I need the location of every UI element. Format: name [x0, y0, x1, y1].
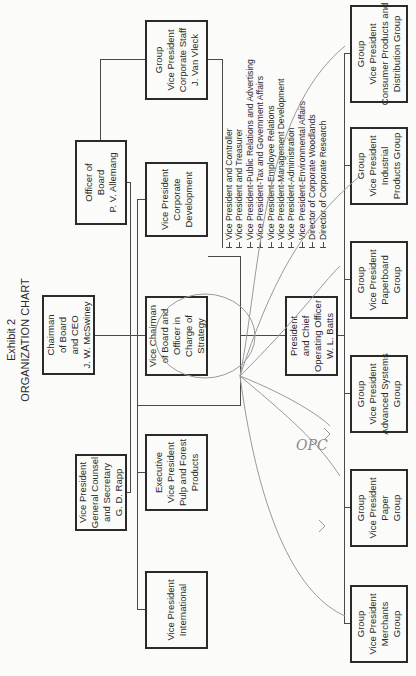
connector [208, 256, 241, 257]
staff-item: Vice President-Administration [286, 0, 296, 248]
arrow-stroke [240, 376, 340, 476]
connector [137, 472, 145, 473]
box-text: Chairman [45, 314, 57, 355]
box-vp-corporate-development: Vice President Corporate Development [145, 162, 208, 237]
box-group-paper: Group Vice President Paper Group [350, 469, 408, 547]
arrow-stroke [240, 376, 345, 616]
box-text: Distribution Group [391, 16, 403, 93]
box-text: and Secretary [101, 463, 113, 522]
staff-item: Vice President and Controller [224, 0, 234, 248]
box-text: Vice President [367, 135, 379, 196]
box-text: W. L. Batts [324, 313, 336, 359]
box-text: Vice President [165, 442, 177, 503]
box-text: Vice President [367, 477, 379, 538]
box-text: Vice President [367, 593, 379, 654]
box-text: of Board and [159, 309, 171, 363]
box-text: P. V. Allemang [107, 152, 119, 212]
box-group-merchants: Group Vice President Merchants Group [350, 585, 408, 663]
box-text: Group [391, 267, 403, 293]
box-officer-of-board: Officer of Board P. V. Allemang [75, 140, 127, 225]
box-text: Vice President [165, 29, 177, 90]
box-text: J. Van Vleck [189, 34, 201, 86]
box-text: Pulp and Forest [177, 439, 189, 506]
staff-item: Director of Corporate Woodlands [307, 0, 317, 248]
connector [137, 199, 145, 200]
corporate-staff-list: Vice President and Controller Vice Presi… [224, 0, 328, 248]
arrowhead [319, 520, 325, 532]
box-text: Products [189, 454, 201, 492]
box-chairman-ceo: Chairman of Board and CEO J. W. McSwiney [42, 295, 95, 375]
box-text: Group [391, 495, 403, 521]
box-text: Industrial [379, 147, 391, 186]
connector [137, 405, 241, 406]
box-text: Executive [153, 452, 165, 493]
box-text: J. W. McSwiney [81, 301, 93, 368]
box-gvp-corporate-staff: Group Vice President Corporate Staff J. … [145, 20, 208, 100]
box-text: Consumer Products and [379, 3, 391, 105]
staff-item: Director of Corporate Research [318, 0, 328, 248]
box-text: Strategy [195, 318, 207, 353]
box-text: Operating Officer [312, 300, 324, 372]
box-text: Corporate Staff [177, 28, 189, 92]
connector [100, 60, 101, 140]
box-vice-chairman: Vice Chairman of Board and Officer in Ch… [145, 296, 208, 376]
connector [240, 335, 285, 336]
connector [95, 335, 131, 336]
box-text: General Counsel [89, 457, 101, 528]
box-text: Merchants [379, 602, 391, 646]
staff-item: Vice President-Tax and Government Affair… [255, 0, 265, 248]
connector [131, 335, 145, 336]
box-text: Group [391, 381, 403, 407]
box-text: Group [355, 267, 367, 293]
box-text: Group [153, 47, 165, 73]
box-text: of Board [57, 317, 69, 353]
connector [127, 492, 131, 493]
box-text: Paperboard [379, 255, 391, 305]
box-text: Charge of [183, 315, 195, 357]
box-text: Group [391, 611, 403, 637]
box-text: Group [355, 153, 367, 179]
arrow-stroke [240, 376, 330, 426]
connector [208, 59, 222, 60]
box-text: Products Group [391, 133, 403, 200]
connector [100, 59, 145, 60]
box-text: Officer in [171, 317, 183, 355]
box-evp-pulp-forest: Executive Vice President Pulp and Forest… [145, 434, 208, 511]
box-group-paperboard: Group Vice President Paperboard Group [350, 241, 408, 319]
handwritten-opc: OPC [296, 437, 328, 453]
box-text: Development [183, 172, 195, 228]
box-text: Group [355, 495, 367, 521]
connector [137, 609, 145, 610]
exhibit-label: Exhibit 2 [4, 270, 18, 410]
box-text: Board [95, 170, 107, 195]
chart-heading: ORGANIZATION CHART [18, 270, 32, 410]
connector [344, 54, 345, 624]
org-chart-page: Exhibit 2 ORGANIZATION CHART Chairman of… [0, 0, 416, 676]
box-president-coo: President and Chief Operating Officer W.… [285, 296, 338, 376]
box-text: President [288, 316, 300, 356]
box-text: and CEO [69, 315, 81, 354]
connector [240, 256, 241, 406]
arrowhead [324, 428, 330, 440]
box-text: Vice President [367, 363, 379, 424]
staff-item: Vice President-Management Development [276, 0, 286, 248]
box-text: Paper [379, 495, 391, 520]
staff-item: Vice President-Environmental Affairs [297, 0, 307, 248]
box-text: Group [355, 381, 367, 407]
connector [127, 182, 131, 183]
box-text: Officer of [83, 163, 95, 201]
box-text: Vice President [159, 169, 171, 230]
staff-item: Vice President-Employee Relations [266, 0, 276, 248]
box-text: Vice President [77, 462, 89, 523]
box-text: Vice President [165, 579, 177, 640]
box-group-industrial-products: Group Vice President Industrial Products… [350, 127, 408, 205]
box-text: Vice President [367, 249, 379, 310]
box-group-advanced-systems: Group Vice President Advanced Systems Gr… [350, 355, 408, 433]
box-text: International [177, 584, 189, 636]
staff-item: Vice President-Public Relations and Adve… [245, 0, 255, 248]
box-text: Group [355, 41, 367, 67]
staff-item: Vice President and Treasurer [234, 0, 244, 248]
box-text: Corporate [171, 178, 183, 220]
connector [222, 59, 223, 248]
box-text: Group [355, 611, 367, 637]
